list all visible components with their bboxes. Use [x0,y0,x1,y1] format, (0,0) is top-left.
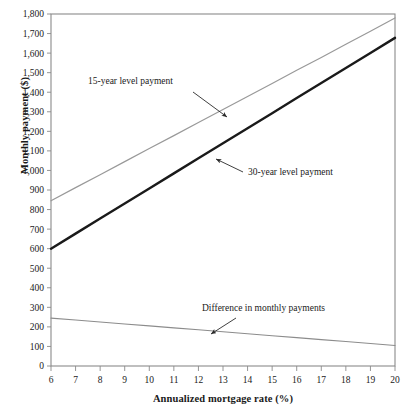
x-tick-label: 17 [317,375,327,385]
x-tick-label: 10 [145,375,155,385]
annotation-arrow [216,159,243,172]
y-tick-label: 900 [30,185,45,195]
y-tick-label: 1,700 [23,29,45,39]
y-tick-label: 100 [30,342,45,352]
annotations-group: 15-year level payment30-year level payme… [88,76,333,334]
y-tick-label: 500 [30,264,45,274]
x-tick-label: 20 [390,375,400,385]
y-tick-label: 800 [30,205,45,215]
y-tick-label: 200 [30,322,45,332]
plot-border [51,14,395,366]
x-tick-label: 13 [218,375,228,385]
y-tick-label: 400 [30,283,45,293]
x-axis-ticks: 67891011121314151617181920 [49,366,400,385]
annotation-label: Difference in monthly payments [202,303,325,313]
y-tick-label: 700 [30,225,45,235]
x-tick-label: 14 [243,375,253,385]
x-tick-label: 8 [98,375,103,385]
x-tick-label: 11 [169,375,178,385]
x-axis-title: Annualized mortgage rate (%) [51,393,395,404]
y-tick-label: 300 [30,303,45,313]
x-tick-label: 15 [267,375,277,385]
x-tick-label: 9 [122,375,127,385]
x-tick-label: 16 [292,375,302,385]
annotation-label: 30-year level payment [248,167,333,177]
x-tick-label: 12 [194,375,204,385]
x-tick-label: 7 [73,375,78,385]
x-tick-label: 18 [341,375,351,385]
y-axis-title: Monthly payment ($) [19,46,30,206]
data-series-group [51,18,395,346]
chart-container: 01002003004005006007008009001,0001,1001,… [0,0,407,415]
y-tick-label: 0 [39,361,44,371]
y-tick-label: 1,800 [23,9,45,19]
mortgage-payment-line-chart: 01002003004005006007008009001,0001,1001,… [0,0,407,415]
annotation-arrow [193,92,227,117]
x-tick-label: 19 [366,375,376,385]
y-tick-label: 600 [30,244,45,254]
annotation-label: 15-year level payment [88,76,173,86]
series-line [51,38,395,249]
plot-frame [51,14,395,366]
x-tick-label: 6 [49,375,54,385]
series-line [51,18,395,201]
series-line [51,318,395,345]
